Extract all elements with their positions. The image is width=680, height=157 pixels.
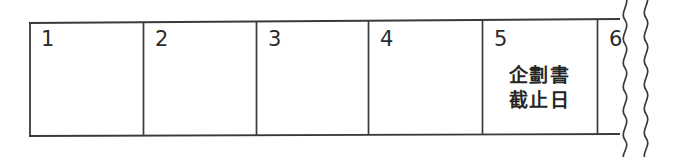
calendar-day-cell[interactable]: 2 <box>143 21 256 137</box>
wavy-line-inner <box>623 0 626 157</box>
day-note-line: 截止日 <box>482 88 597 113</box>
day-number: 2 <box>155 29 169 50</box>
day-note: 企劃書 截止日 <box>482 63 597 113</box>
calendar-figure: 1 2 3 4 5 企劃書 截止日 6 <box>0 0 680 157</box>
calendar-day-strip: 1 2 3 4 5 企劃書 截止日 6 <box>29 21 620 137</box>
day-number: 3 <box>268 29 282 50</box>
calendar-day-cell[interactable]: 4 <box>368 21 482 137</box>
calendar-day-cell[interactable]: 3 <box>256 21 368 137</box>
calendar-day-cell[interactable]: 5 企劃書 截止日 <box>482 21 597 137</box>
wavy-cut-marker <box>620 0 680 157</box>
day-note-line: 企劃書 <box>482 63 597 88</box>
day-number: 4 <box>380 29 394 50</box>
day-number: 1 <box>41 29 55 50</box>
calendar-day-cell[interactable]: 1 <box>29 21 143 137</box>
calendar-day-cell[interactable]: 6 <box>597 21 620 137</box>
day-number: 5 <box>494 29 508 50</box>
wavy-line-outer <box>644 0 647 157</box>
